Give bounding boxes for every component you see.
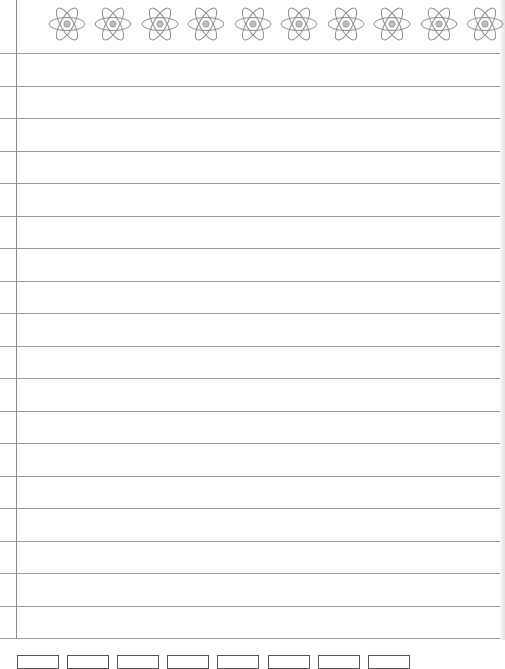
ruled-line [0, 151, 500, 152]
ruled-line [0, 443, 500, 444]
atom-icon [233, 4, 273, 44]
toolbar-button-1[interactable] [17, 655, 59, 669]
ruled-line [0, 313, 500, 314]
ruled-line [0, 606, 500, 607]
atom-header-row [0, 4, 505, 44]
atom-icon [47, 4, 87, 44]
ruled-line [0, 216, 500, 217]
ruled-line [0, 183, 500, 184]
atom-icon [326, 4, 366, 44]
ruled-line [0, 346, 500, 347]
toolbar-button-6[interactable] [268, 655, 310, 669]
ruled-line [0, 378, 500, 379]
toolbar-button-8[interactable] [368, 655, 410, 669]
atom-icon [372, 4, 412, 44]
margin-line [16, 0, 17, 638]
ruled-line [0, 638, 500, 639]
page-edge-shadow [499, 0, 505, 640]
toolbar-button-2[interactable] [67, 655, 109, 669]
ruled-line [0, 476, 500, 477]
ruled-line [0, 248, 500, 249]
atom-icon [419, 4, 459, 44]
atom-icon [140, 4, 180, 44]
ruled-line [0, 573, 500, 574]
ruled-line [0, 411, 500, 412]
atom-icon [93, 4, 133, 44]
ruled-line [0, 86, 500, 87]
ruled-line [0, 508, 500, 509]
ruled-line [0, 118, 500, 119]
atom-icon [186, 4, 226, 44]
toolbar-button-4[interactable] [167, 655, 209, 669]
toolbar-button-7[interactable] [318, 655, 360, 669]
ruled-line [0, 281, 500, 282]
atom-icon [465, 4, 505, 44]
toolbar-button-3[interactable] [117, 655, 159, 669]
atom-icon [279, 4, 319, 44]
bottom-toolbar [0, 655, 505, 666]
toolbar-button-5[interactable] [217, 655, 259, 669]
ruled-line [0, 53, 500, 54]
ruled-line [0, 541, 500, 542]
